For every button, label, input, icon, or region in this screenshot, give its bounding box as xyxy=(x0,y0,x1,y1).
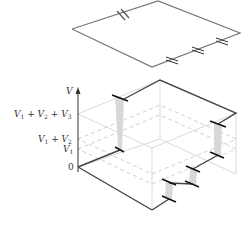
resistor-icon xyxy=(216,38,228,45)
tick-v1: V1 xyxy=(63,144,73,155)
axis-label-v: V xyxy=(66,86,74,96)
tick-zero: 0 xyxy=(68,162,74,172)
v-axis xyxy=(76,87,81,172)
top-circuit xyxy=(72,1,240,67)
dashed-levels xyxy=(78,105,236,184)
potential-fills xyxy=(115,95,222,200)
box-wireframe xyxy=(78,80,236,210)
potential-diagram: V V1 + V2 + V3 V1 + V2 V1 0 xyxy=(0,0,246,226)
tick-v1-v2-v3: V1 + V2 + V3 xyxy=(14,109,72,120)
potential-path xyxy=(78,80,236,210)
